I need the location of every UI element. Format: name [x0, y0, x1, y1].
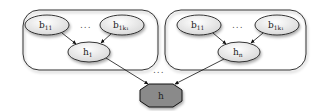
leaf-ellipsis-group-1: ... — [80, 20, 92, 30]
edge-b1k1-h1 — [101, 33, 112, 43]
diagram-canvas: b11 ... b1k₁ h1 b11 ... b1k₁ hn ... h — [0, 0, 322, 111]
leaf-ellipsis-group-n: ... — [232, 20, 244, 30]
edge-hn-h — [175, 58, 226, 84]
edge-h1-h — [106, 58, 148, 84]
group-ellipsis: ... — [153, 65, 165, 75]
label-root-h: h — [158, 91, 164, 101]
edge-b11-h1 — [62, 33, 76, 44]
edge-b1k1-hn — [251, 33, 263, 43]
edge-b11-hn — [213, 33, 226, 44]
